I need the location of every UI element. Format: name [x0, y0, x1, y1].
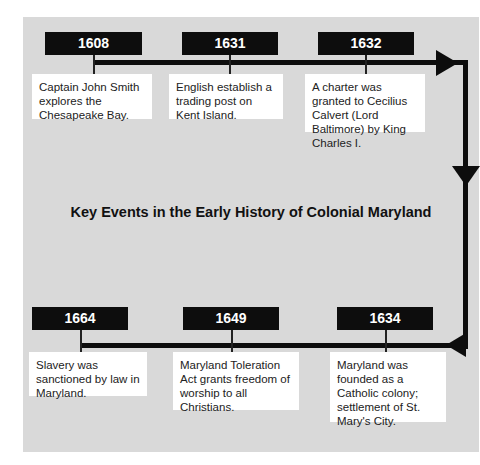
year-tick — [385, 330, 387, 353]
year-tick — [80, 330, 82, 353]
event-card-1634: Maryland was founded as a Catholic colon… — [330, 352, 446, 422]
event-card-1664: Slavery was sanctioned by law in Marylan… — [29, 352, 147, 396]
event-card-1631: English establish a trading post on Kent… — [169, 74, 283, 119]
year-box-1631: 1631 — [182, 32, 278, 55]
event-card-1649: Maryland Toleration Act grants freedom o… — [173, 352, 299, 410]
arrow-right-icon — [436, 50, 458, 76]
arrow-down-icon — [452, 166, 480, 186]
year-box-1664: 1664 — [32, 307, 128, 330]
diagram-title: Key Events in the Early History of Colon… — [23, 204, 479, 220]
year-box-1608: 1608 — [45, 32, 142, 55]
event-card-1632: A charter was granted to Cecilius Calver… — [305, 74, 425, 132]
arrow-left-icon — [446, 333, 466, 357]
event-card-1608: Captain John Smith explores the Chesapea… — [32, 74, 152, 119]
year-tick — [93, 55, 95, 75]
year-tick — [365, 55, 367, 75]
year-box-1634: 1634 — [337, 307, 433, 330]
top-timeline-line — [93, 60, 467, 65]
year-tick — [229, 55, 231, 75]
year-tick — [231, 330, 233, 353]
year-box-1649: 1649 — [183, 307, 279, 330]
bottom-timeline-line — [80, 343, 468, 348]
year-box-1632: 1632 — [318, 32, 414, 55]
